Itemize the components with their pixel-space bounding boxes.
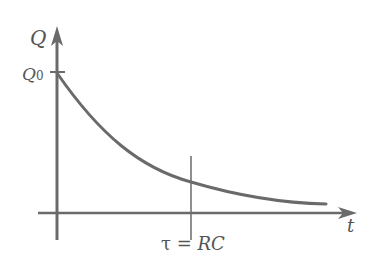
charge-decay-diagram: Q Q0 t τ = RC — [0, 0, 379, 264]
y-axis-label: Q — [30, 26, 46, 50]
q0-label: Q0 — [22, 64, 44, 84]
x-axis-label: t — [347, 215, 355, 236]
tau-label: τ = RC — [161, 233, 225, 254]
